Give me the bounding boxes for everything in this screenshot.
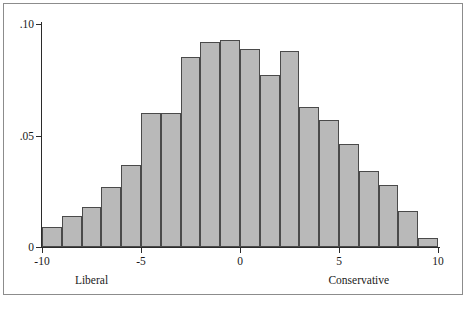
histogram-bar bbox=[82, 207, 102, 247]
x-axis-tick bbox=[240, 248, 241, 253]
y-axis-tick bbox=[36, 24, 41, 25]
histogram-bar bbox=[359, 171, 379, 247]
histogram-bar bbox=[339, 144, 359, 247]
x-axis-anchor-label: Conservative bbox=[299, 274, 419, 287]
histogram-bar bbox=[379, 185, 399, 247]
histogram-bar bbox=[200, 42, 220, 247]
histogram-bar bbox=[161, 113, 181, 247]
y-axis-tick-label: .05 bbox=[0, 130, 34, 142]
x-axis-tick-label: 5 bbox=[319, 255, 359, 268]
y-axis-tick bbox=[36, 247, 41, 248]
x-axis-tick bbox=[438, 248, 439, 253]
histogram-bar bbox=[101, 187, 121, 247]
histogram-bar bbox=[42, 227, 62, 247]
histogram-bar bbox=[418, 238, 438, 247]
histogram-bar bbox=[181, 57, 201, 247]
x-axis-tick bbox=[339, 248, 340, 253]
histogram-bar bbox=[398, 211, 418, 247]
histogram-bar bbox=[319, 120, 339, 247]
histogram-bar bbox=[260, 75, 280, 247]
x-axis-tick bbox=[42, 248, 43, 253]
histogram-bar bbox=[299, 107, 319, 247]
histogram-bar bbox=[141, 113, 161, 247]
plot-area bbox=[42, 24, 438, 247]
x-axis-tick-label: -10 bbox=[22, 255, 62, 268]
histogram-bar bbox=[240, 49, 260, 247]
x-axis-tick-label: 0 bbox=[220, 255, 260, 268]
histogram-figure: 0.05.10 -10-50510 LiberalConservative bbox=[0, 0, 468, 309]
x-axis-anchor-label: Liberal bbox=[32, 274, 152, 287]
histogram-bar bbox=[62, 216, 82, 247]
x-axis-tick-label: -5 bbox=[121, 255, 161, 268]
histogram-bar bbox=[220, 40, 240, 247]
y-axis-tick-label: 0 bbox=[0, 241, 34, 253]
x-axis-tick bbox=[141, 248, 142, 253]
histogram-bar bbox=[280, 51, 300, 247]
x-axis-tick-label: 10 bbox=[418, 255, 458, 268]
y-axis-tick-label: .10 bbox=[0, 18, 34, 30]
histogram-bar bbox=[121, 165, 141, 248]
y-axis-tick bbox=[36, 136, 41, 137]
